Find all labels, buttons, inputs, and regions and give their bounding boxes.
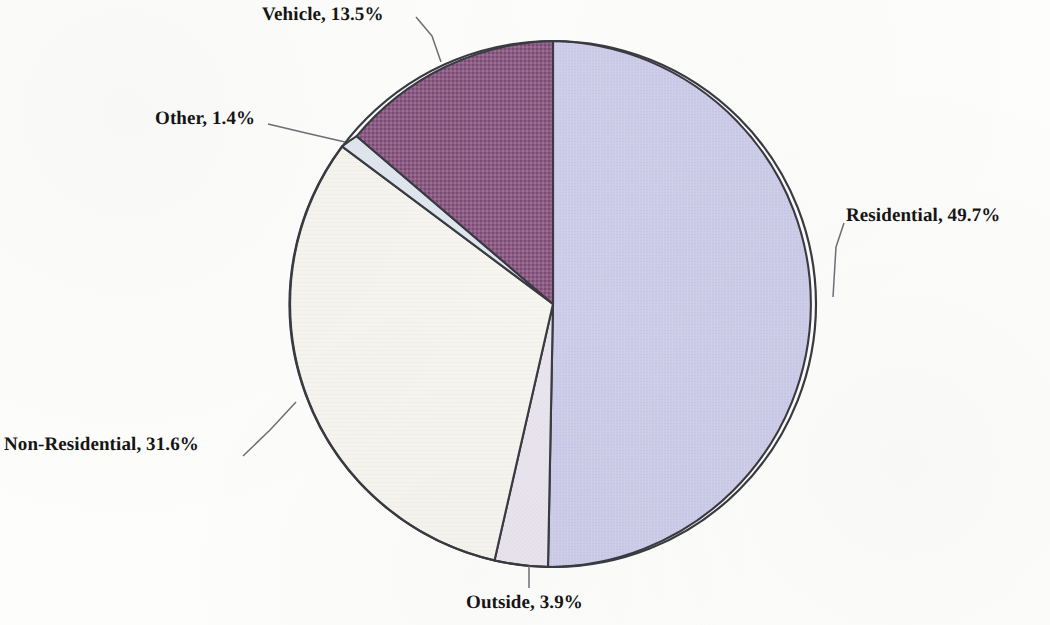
leader-line-other [268,124,345,142]
pie-label-other: Other, 1.4% [155,108,255,130]
pie-label-vehicle: Vehicle, 13.5% [262,4,384,26]
chart-page: Residential, 49.7% Vehicle, 13.5% Other,… [0,0,1050,625]
pie-label-non-residential: Non-Residential, 31.6% [4,434,199,456]
pie-label-outside: Outside, 3.9% [466,592,583,614]
pie-slice-residential[interactable] [548,41,811,567]
leader-line-vehicle [416,17,441,62]
leader-line-non-residential [243,402,296,456]
pie-label-residential: Residential, 49.7% [846,205,1000,227]
pie-chart [0,0,1050,625]
leader-line-residential [833,223,844,297]
